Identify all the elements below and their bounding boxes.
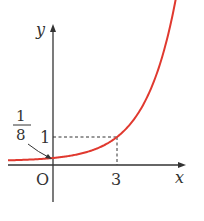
fraction-denominator: 8 <box>16 126 26 144</box>
fraction-numerator: 1 <box>16 107 26 125</box>
y-tick-1: 1 <box>40 128 50 147</box>
exponential-curve <box>8 0 176 160</box>
y-axis-arrow-icon <box>50 24 56 32</box>
graph: y x O 3 1 1 8 <box>0 0 204 221</box>
x-tick-3: 3 <box>111 170 121 189</box>
y-axis-label: y <box>35 20 46 39</box>
origin-label: O <box>36 170 49 189</box>
x-axis-label: x <box>175 168 184 187</box>
